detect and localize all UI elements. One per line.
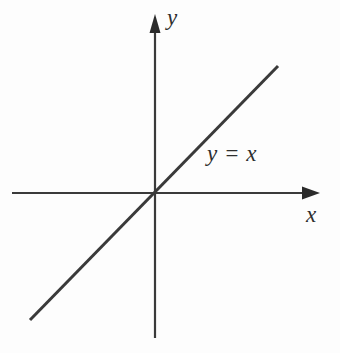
plot-canvas [0, 0, 340, 353]
y-axis-label: y [167, 6, 177, 29]
y-axis-arrow-icon [150, 14, 161, 33]
x-axis-label: x [306, 203, 316, 226]
line-equation-label: y = x [207, 142, 257, 165]
coordinate-plane-figure: y x y = x [0, 0, 340, 353]
x-axis-arrow-icon [302, 187, 320, 200]
